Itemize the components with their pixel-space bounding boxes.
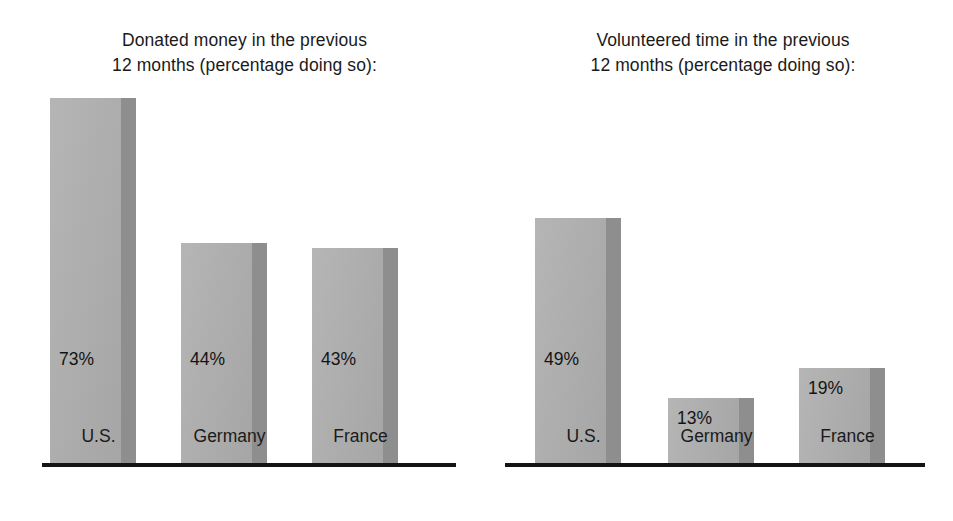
chart-panel-donated-money: Donated money in the previous 12 months …: [0, 0, 477, 521]
x-tick-label: Germany: [650, 426, 783, 447]
bar-slot: 49% U.S.: [517, 63, 650, 463]
bar-slot: 43% France: [294, 63, 427, 463]
bar-side-face: [870, 368, 885, 463]
x-tick-label: Germany: [163, 426, 296, 447]
plot-area-right: 49% U.S. 13% Germany 1: [477, 0, 953, 521]
bar-slot: 13% Germany: [650, 63, 783, 463]
bar-group-left: 73% U.S. 44% Germany 4: [0, 63, 477, 463]
x-tick-label: U.S.: [517, 426, 650, 447]
chart-page: Donated money in the previous 12 months …: [0, 0, 953, 521]
x-tick-label: France: [781, 426, 914, 447]
bar-group-right: 49% U.S. 13% Germany 1: [477, 63, 953, 463]
plot-area-left: 73% U.S. 44% Germany 4: [0, 0, 477, 521]
chart-panel-volunteered-time: Volunteered time in the previous 12 mont…: [477, 0, 953, 521]
bar-slot: 44% Germany: [163, 63, 296, 463]
bar-slot: 73% U.S.: [32, 63, 165, 463]
bar-slot: 19% France: [781, 63, 914, 463]
bar-value-label: 43%: [321, 349, 356, 370]
bar-value-label: 73%: [59, 349, 94, 370]
x-axis-line-right: [505, 463, 925, 467]
x-tick-label: U.S.: [32, 426, 165, 447]
x-axis-line-left: [42, 463, 456, 467]
bar-side-face: [121, 98, 136, 463]
bar-value-label: 19%: [808, 378, 843, 399]
bar-front-face: [50, 98, 121, 463]
bar-value-label: 44%: [190, 349, 225, 370]
x-tick-label: France: [294, 426, 427, 447]
bar[interactable]: 19%: [799, 368, 885, 463]
bar-value-label: 49%: [544, 349, 579, 370]
bar[interactable]: 73%: [50, 98, 136, 463]
